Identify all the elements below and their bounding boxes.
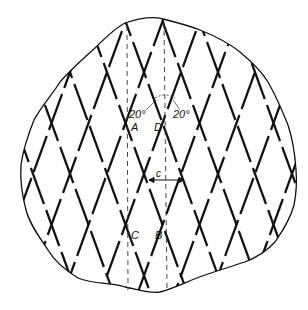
point-label-a: A: [131, 122, 138, 133]
point-label-d: D: [154, 122, 162, 133]
point-label-b: B: [155, 230, 162, 241]
spacing-arrow: [149, 178, 184, 183]
spacing-label-c: c: [156, 169, 161, 179]
angle-label-left: 20°: [129, 109, 146, 120]
point-label-c: C: [131, 230, 139, 241]
diagram-canvas: [0, 0, 308, 310]
fracture-lines: [0, 0, 308, 310]
angle-label-right: 20°: [173, 109, 190, 120]
angle-leader-left: [146, 100, 156, 110]
fracture-pattern-diagram: 20° 20° A D C B c: [0, 0, 308, 310]
